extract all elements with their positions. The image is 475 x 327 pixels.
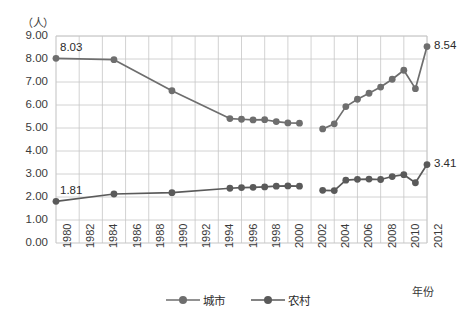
data-point-urban[interactable]: [354, 96, 361, 103]
data-point-rural[interactable]: [238, 184, 245, 191]
data-point-urban[interactable]: [111, 56, 118, 63]
legend-marker-urban: [166, 294, 200, 306]
data-point-urban[interactable]: [400, 67, 407, 74]
data-point-urban[interactable]: [424, 43, 431, 50]
y-tick-label: 1.00: [14, 213, 48, 225]
data-point-urban[interactable]: [296, 120, 303, 127]
y-tick-label: 6.00: [14, 98, 48, 110]
y-tick-label: 4.00: [14, 144, 48, 156]
data-point-rural[interactable]: [377, 176, 384, 183]
data-point-urban[interactable]: [284, 120, 291, 127]
data-point-rural[interactable]: [284, 183, 291, 190]
x-tick-label: 1994: [223, 224, 235, 248]
legend-label-urban: 城市: [203, 292, 225, 308]
x-tick-label: 1982: [84, 224, 96, 248]
chart-legend: 城市 农村: [0, 292, 475, 308]
data-point-urban[interactable]: [169, 87, 176, 94]
point-value-label: 8.54: [434, 39, 456, 51]
y-tick-label: 9.00: [14, 29, 48, 41]
series-line-rural: [323, 165, 427, 191]
data-point-urban[interactable]: [389, 76, 396, 83]
data-point-rural[interactable]: [400, 171, 407, 178]
data-point-rural[interactable]: [227, 185, 234, 192]
y-tick-label: 0.00: [14, 236, 48, 248]
data-point-urban[interactable]: [238, 116, 245, 123]
data-point-rural[interactable]: [319, 187, 326, 194]
data-point-urban[interactable]: [342, 103, 349, 110]
x-tick-label: 1986: [131, 224, 143, 248]
data-point-rural[interactable]: [273, 183, 280, 190]
x-tick-label: 2000: [293, 224, 305, 248]
data-point-rural[interactable]: [342, 177, 349, 184]
series-line-urban: [56, 58, 299, 123]
data-point-rural[interactable]: [111, 191, 118, 198]
data-point-urban[interactable]: [412, 85, 419, 92]
data-point-urban[interactable]: [366, 90, 373, 97]
chart-container: （人） 0.001.002.003.004.005.006.007.008.00…: [0, 0, 475, 327]
data-point-rural[interactable]: [296, 183, 303, 190]
x-tick-label: 1998: [270, 224, 282, 248]
data-point-rural[interactable]: [354, 176, 361, 183]
data-point-rural[interactable]: [250, 184, 257, 191]
data-point-urban[interactable]: [227, 115, 234, 122]
data-point-rural[interactable]: [53, 198, 60, 205]
y-tick-label: 8.00: [14, 52, 48, 64]
data-point-urban[interactable]: [261, 116, 268, 123]
data-point-rural[interactable]: [366, 176, 373, 183]
x-tick-label: 1984: [107, 224, 119, 248]
data-point-urban[interactable]: [319, 126, 326, 133]
x-tick-label: 2006: [362, 224, 374, 248]
legend-item-urban[interactable]: 城市: [166, 292, 225, 308]
data-point-urban[interactable]: [377, 84, 384, 91]
x-tick-label: 1988: [154, 224, 166, 248]
data-point-urban[interactable]: [273, 118, 280, 125]
legend-marker-rural: [251, 294, 285, 306]
x-tick-label: 2010: [409, 224, 421, 248]
point-value-label: 3.41: [434, 157, 456, 169]
data-point-urban[interactable]: [250, 117, 257, 124]
legend-label-rural: 农村: [288, 292, 310, 308]
data-point-rural[interactable]: [261, 183, 268, 190]
x-tick-label: 1980: [61, 224, 73, 248]
x-tick-label: 1990: [177, 224, 189, 248]
point-value-label: 8.03: [60, 41, 82, 53]
point-value-label: 1.81: [60, 184, 82, 196]
data-point-rural[interactable]: [169, 189, 176, 196]
legend-item-rural[interactable]: 农村: [251, 292, 310, 308]
x-tick-label: 1996: [247, 224, 259, 248]
y-axis-unit-label: （人）: [22, 14, 54, 30]
data-point-urban[interactable]: [331, 120, 338, 127]
x-tick-label: 2004: [339, 224, 351, 248]
data-point-rural[interactable]: [389, 173, 396, 180]
x-tick-label: 2012: [432, 224, 444, 248]
x-tick-label: 2002: [316, 224, 328, 248]
y-tick-label: 5.00: [14, 121, 48, 133]
x-tick-label: 1992: [200, 224, 212, 248]
data-point-urban[interactable]: [53, 55, 60, 62]
y-tick-label: 2.00: [14, 190, 48, 202]
x-tick-label: 2008: [386, 224, 398, 248]
data-point-rural[interactable]: [424, 161, 431, 168]
data-point-rural[interactable]: [412, 179, 419, 186]
data-point-rural[interactable]: [331, 187, 338, 194]
y-tick-label: 7.00: [14, 75, 48, 87]
y-tick-label: 3.00: [14, 167, 48, 179]
